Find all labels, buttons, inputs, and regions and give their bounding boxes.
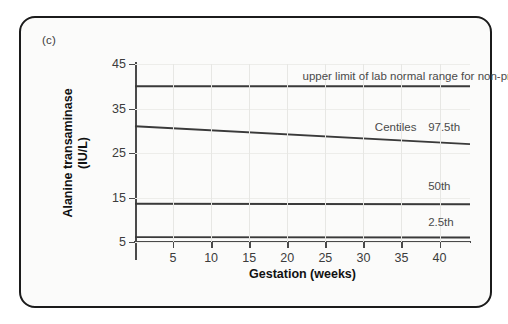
gridline-horizontal (135, 64, 470, 65)
plot-area: 510152025303540515253545upper limit of l… (135, 64, 470, 242)
series-line (135, 126, 470, 144)
gridline-vertical (173, 64, 174, 242)
x-axis-tick-label: 30 (356, 251, 370, 265)
y-axis-tick-label: 5 (119, 235, 126, 249)
gridline-vertical (325, 64, 326, 242)
gridline-horizontal (135, 109, 470, 110)
x-axis-tick-label: 40 (433, 251, 447, 265)
gridline-vertical (211, 64, 212, 242)
gridline-vertical (401, 64, 402, 242)
series-annotation: Centiles (375, 121, 417, 133)
series-annotation: 2.5th (428, 216, 454, 228)
y-axis-tick-label: 45 (112, 57, 126, 71)
x-axis-label: Gestation (weeks) (135, 267, 470, 281)
y-axis-tick (129, 198, 135, 199)
y-axis-label-line2: (IU/L) (76, 137, 91, 169)
x-axis-tick (287, 242, 288, 248)
x-axis-tick (211, 242, 212, 248)
x-axis-tick (173, 242, 174, 248)
series-annotation: 97.5th (428, 121, 460, 133)
gridline-horizontal (135, 198, 470, 199)
y-axis-tick (129, 242, 135, 243)
y-axis-tick (129, 64, 135, 65)
plot-wrapper: Alanine transaminase (IU/L) 510152025303… (21, 18, 494, 310)
gridline-vertical (249, 64, 250, 242)
gridline-horizontal (135, 242, 470, 243)
gridline-horizontal (135, 153, 470, 154)
y-axis-tick-label: 15 (112, 191, 126, 205)
x-axis-tick (440, 242, 441, 248)
x-axis-tick-label: 10 (204, 251, 218, 265)
series-annotation: 50th (428, 180, 450, 192)
y-axis-tick (129, 153, 135, 154)
x-axis-tick (401, 242, 402, 248)
y-axis-label: Alanine transaminase (IU/L) (59, 64, 93, 242)
series-annotation: upper limit of lab normal range for non-… (303, 70, 508, 82)
x-axis-tick (325, 242, 326, 248)
y-axis-tick-label: 35 (112, 102, 126, 116)
y-axis-label-line1: Alanine transaminase (61, 88, 76, 217)
x-axis-tick (363, 242, 364, 248)
x-axis-tick-label: 20 (280, 251, 294, 265)
x-axis-tick-label: 15 (242, 251, 256, 265)
x-axis-tick-label: 5 (170, 251, 177, 265)
figure-panel: (c) Alanine transaminase (IU/L) 51015202… (19, 16, 492, 308)
x-axis-tick (249, 242, 250, 248)
y-axis-tick-label: 25 (112, 146, 126, 160)
x-axis-tick-label: 25 (318, 251, 332, 265)
x-axis-tick-label: 35 (395, 251, 409, 265)
gridline-vertical (287, 64, 288, 242)
y-axis-tick (129, 109, 135, 110)
gridline-vertical (363, 64, 364, 242)
